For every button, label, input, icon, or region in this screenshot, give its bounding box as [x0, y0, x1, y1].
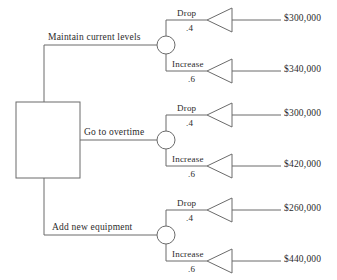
- branch-label-go-to-overtime: Go to overtime: [84, 128, 144, 138]
- terminal-triangle-2b: [207, 154, 232, 178]
- probability-label-2b: .6: [188, 170, 195, 179]
- probability-label-2a: .4: [186, 119, 193, 128]
- probability-label-3b: .6: [188, 265, 195, 274]
- outcome-label-2a-drop: Drop: [177, 104, 196, 113]
- chance-node-2: [157, 131, 175, 149]
- outcome-label-1b-increase: Increase: [172, 60, 204, 69]
- outcome-label-2b-increase: Increase: [172, 155, 204, 164]
- probability-label-1b: .6: [188, 75, 195, 84]
- trunk-upper: [44, 45, 157, 102]
- outcome-label-3a-drop: Drop: [177, 199, 196, 208]
- outcome-label-3b-increase: Increase: [172, 250, 204, 259]
- chance-node-3: [157, 226, 175, 244]
- payoff-value-3b: $440,000: [284, 255, 321, 265]
- payoff-value-2a: $300,000: [284, 109, 321, 119]
- terminal-triangle-3b: [207, 249, 232, 273]
- terminal-triangle-1a: [207, 8, 232, 32]
- probability-label-3a: .4: [186, 214, 193, 223]
- chance-node-1: [157, 36, 175, 54]
- probability-label-1a: .4: [186, 24, 193, 33]
- outcome-label-1a-drop: Drop: [177, 9, 196, 18]
- payoff-value-1b: $340,000: [284, 65, 321, 75]
- decision-square-node: [16, 102, 80, 178]
- payoff-value-3a: $260,000: [284, 204, 321, 214]
- terminal-triangle-3a: [207, 198, 232, 222]
- terminal-triangle-1b: [207, 59, 232, 83]
- branch-label-maintain-current-levels: Maintain current levels: [48, 33, 141, 43]
- decision-tree-diagram: Maintain current levels Go to overtime A…: [0, 0, 337, 280]
- branch-label-add-new-equipment: Add new equipment: [52, 223, 132, 233]
- terminal-triangle-2a: [207, 103, 232, 127]
- payoff-value-1a: $300,000: [284, 14, 321, 24]
- payoff-value-2b: $420,000: [284, 160, 321, 170]
